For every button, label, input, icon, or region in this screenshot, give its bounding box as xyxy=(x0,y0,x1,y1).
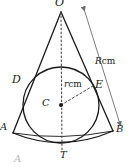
label-center-C: C xyxy=(42,98,50,108)
label-tangent-D: D xyxy=(12,74,21,85)
label-base-right-B: B xyxy=(116,124,123,134)
center-point-dot xyxy=(59,103,63,107)
label-tangent-E: E xyxy=(95,79,103,90)
cone-right-slant-line xyxy=(61,12,113,131)
cone-base-arc-back xyxy=(13,131,113,137)
label-slant-measure: Rcm xyxy=(95,57,115,66)
figure-caption: A xyxy=(14,153,21,164)
slant-unit: cm xyxy=(102,56,116,66)
label-base-left-A: A xyxy=(0,122,7,132)
label-bottom-tangent-T: T xyxy=(60,150,67,160)
slant-symbol: R xyxy=(95,56,102,66)
geometry-figure: O D E C T A B rcm Rcm A xyxy=(0,0,129,167)
vertical-axis-dashed-line xyxy=(61,12,62,152)
radius-unit: cm xyxy=(68,79,82,89)
label-radius-measure: rcm xyxy=(64,80,82,89)
label-apex-O: O xyxy=(55,0,64,8)
